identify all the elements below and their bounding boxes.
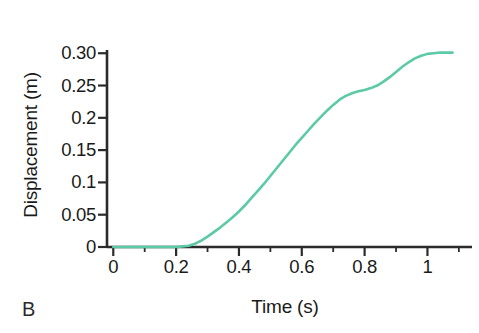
x-tick-label: 0.4 [209,258,269,277]
x-tick-label: 0 [83,258,143,277]
y-tick-label: 0.15 [6,141,96,160]
y-tick-label: 0.05 [6,206,96,225]
x-tick-label: 1 [397,258,457,277]
y-tick-label: 0.1 [6,173,96,192]
y-tick-label: 0.30 [6,44,96,63]
y-tick-label: 0.25 [6,77,96,96]
x-axis-tick-labels: 00.20.40.60.81 [0,258,479,288]
x-tick-label: 0.6 [272,258,332,277]
y-tick-label: 0 [6,238,96,257]
y-tick-label: 0.2 [6,109,96,128]
figure-panel-b: Displacement (m) 00.050.10.150.20.250.30… [0,0,479,333]
panel-label: B [22,298,35,321]
x-tick-label: 0.8 [335,258,395,277]
x-axis-title: Time (s) [107,296,463,318]
x-tick-label: 0.2 [146,258,206,277]
axes [98,50,472,256]
series-line-displacement [113,53,452,247]
data-series [113,53,452,247]
